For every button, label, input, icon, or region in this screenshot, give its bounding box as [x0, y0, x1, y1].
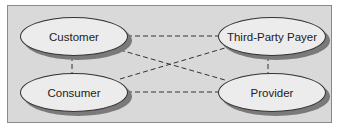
node-label: Provider — [251, 87, 294, 99]
edge-customer-provider — [120, 50, 225, 80]
node-consumer: Consumer — [20, 73, 128, 112]
node-label: Customer — [49, 31, 99, 43]
node-third-party-payer: Third-Party Payer — [218, 17, 326, 56]
node-label: Third-Party Payer — [227, 31, 317, 43]
node-provider: Provider — [218, 73, 326, 112]
node-customer: Customer — [20, 17, 128, 56]
edge-consumer-third-party-payer — [120, 48, 225, 79]
node-label: Consumer — [47, 87, 100, 99]
